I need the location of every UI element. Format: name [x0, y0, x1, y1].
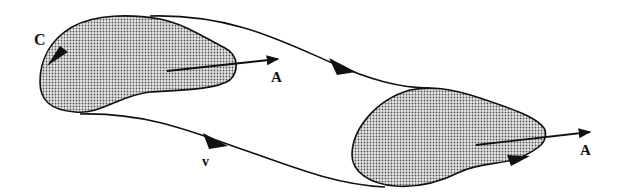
label-a-right: A	[580, 142, 591, 158]
flow-arrow-bottom-icon	[203, 133, 228, 149]
flow-arrow-inner-icon	[507, 155, 530, 166]
transport-diagram: C A A v	[0, 0, 622, 195]
label-c: C	[34, 31, 46, 48]
initial-region	[40, 16, 236, 112]
flow-arrow-top-icon	[329, 58, 356, 75]
flow-line-bottom	[80, 114, 385, 187]
transported-region	[352, 88, 546, 186]
label-v: v	[202, 154, 209, 169]
label-a-left: A	[271, 69, 282, 85]
